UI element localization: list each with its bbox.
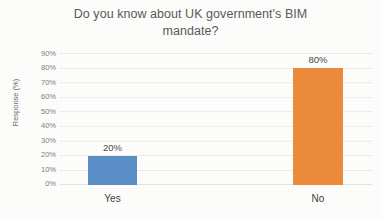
y-tick-label-40: 40% <box>30 121 56 130</box>
y-tick-label-20: 20% <box>30 150 56 159</box>
chart-title-line-2: mandate? <box>30 23 351 40</box>
y-tick-label-90: 90% <box>30 49 56 58</box>
y-axis-title: Response (%) <box>11 63 20 143</box>
bar-value-label-no: 80% <box>293 54 343 65</box>
bar-value-label-yes: 20% <box>88 142 137 153</box>
plot-area <box>60 53 372 185</box>
y-tick-label-30: 30% <box>30 136 56 145</box>
x-tick-label-yes: Yes <box>88 193 137 204</box>
y-tick-label-0: 0% <box>30 179 56 188</box>
bar-chart-figure: Do you know about UK government's BIM ma… <box>0 0 381 219</box>
y-tick-label-50: 50% <box>30 107 56 116</box>
chart-title: Do you know about UK government's BIM ma… <box>30 6 351 40</box>
chart-title-line-1: Do you know about UK government's BIM <box>30 6 351 23</box>
y-tick-label-70: 70% <box>30 78 56 87</box>
y-tick-label-10: 10% <box>30 165 56 174</box>
y-tick-label-60: 60% <box>30 92 56 101</box>
bar-no[interactable] <box>293 68 343 185</box>
bar-yes[interactable] <box>88 156 137 185</box>
y-tick-label-80: 80% <box>30 63 56 72</box>
x-tick-label-no: No <box>293 193 343 204</box>
